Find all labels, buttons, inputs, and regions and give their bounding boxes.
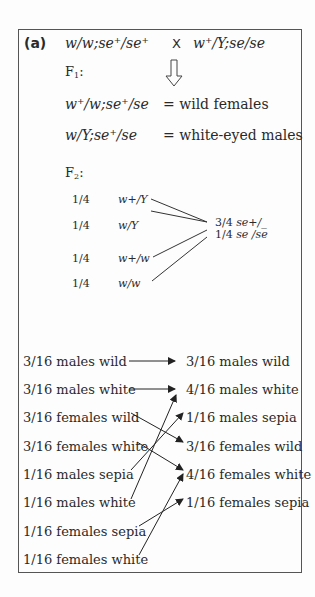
down-arrow-icon	[166, 60, 182, 86]
connector-lines	[0, 0, 315, 597]
